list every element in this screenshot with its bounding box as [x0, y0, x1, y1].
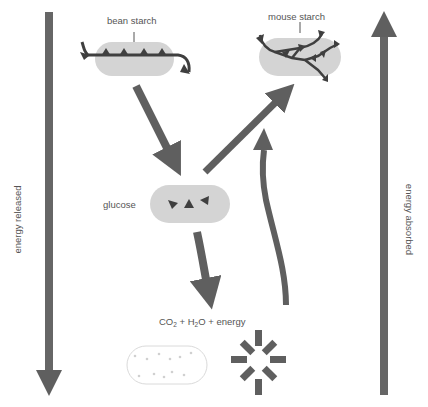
bean-starch-label: bean starch	[107, 15, 157, 26]
arrowhead-sun-to-mouse	[253, 128, 273, 150]
arrow-glucose-to-products	[197, 232, 208, 290]
mouse-starch-molecule	[256, 22, 341, 82]
starch-energy-diagram	[0, 0, 428, 407]
mouse-starch-label: mouse starch	[268, 11, 325, 22]
energy-released-label: energy released	[12, 180, 23, 260]
energy-absorbed-arrow	[371, 11, 397, 395]
glucose-label: glucose	[103, 199, 136, 210]
sun-icon	[231, 330, 286, 395]
energy-released-arrow	[36, 12, 62, 396]
arrow-bean-to-glucose	[136, 86, 172, 158]
bean-starch-molecule	[80, 32, 190, 76]
energy-text: O + energy	[198, 316, 245, 327]
arrow-sun-to-mouse	[263, 150, 286, 305]
arrow-glucose-to-mouse	[205, 96, 282, 172]
energy-absorbed-label: energy absorbed	[404, 180, 415, 260]
glucose-molecule	[150, 185, 230, 223]
co-text: CO	[159, 316, 173, 327]
products-label: CO2 + H2O + energy	[159, 316, 245, 328]
cell	[127, 346, 207, 384]
h-text: + H	[177, 316, 195, 327]
